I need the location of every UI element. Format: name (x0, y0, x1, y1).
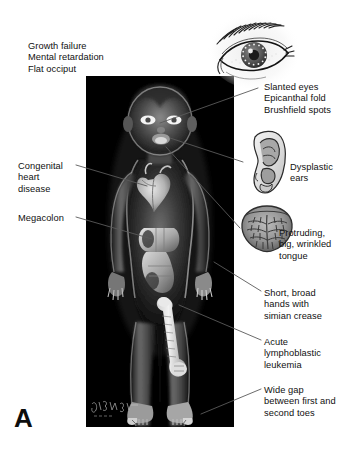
pediatric-radiograph-panel (86, 76, 234, 427)
callout-slanted-eyes: Slanted eyes Epicanthal fold Brushfield … (264, 82, 331, 116)
callout-growth-failure: Growth failure Mental retardation Flat o… (28, 41, 104, 75)
callout-wide-gap-toes: Wide gap between first and second toes (264, 385, 336, 419)
callout-congenital-heart-disease: Congenital heart disease (18, 161, 63, 195)
dysplastic-ear-drawing (243, 127, 289, 197)
callout-dysplastic-ears: Dysplastic ears (290, 162, 333, 185)
figure-root: Growth failure Mental retardation Flat o… (0, 0, 355, 451)
slanted-eye-drawing (206, 8, 302, 90)
panel-letter-label: A (14, 403, 33, 434)
callout-megacolon: Megacolon (18, 213, 64, 224)
callout-protruding-tongue: Protruding, big, wrinkled tongue (279, 228, 331, 262)
callout-short-broad-hands: Short, broad hands with simian crease (264, 288, 322, 322)
callout-acute-lymphoblastic-leukemia: Acute lymphoblastic leukemia (264, 337, 321, 371)
